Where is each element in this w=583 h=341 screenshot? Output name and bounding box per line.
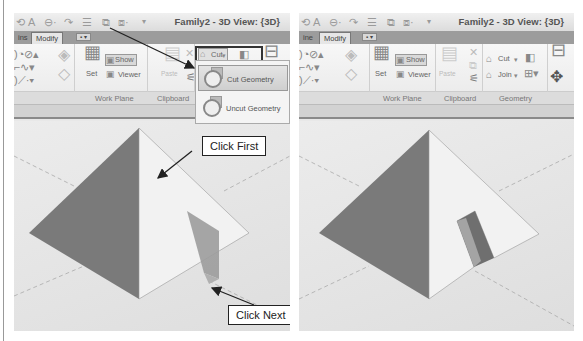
text-icon[interactable]: A (28, 16, 35, 28)
viewer-icon: ▣ (106, 69, 115, 80)
align-icon[interactable]: ⊟ (551, 45, 566, 56)
join-dropdown-icon[interactable]: ▾ (514, 70, 518, 81)
pick-lines-icon[interactable]: )⟋·▾ (14, 75, 34, 86)
group-label-geometry: Geometry (499, 94, 532, 103)
tab-modify[interactable]: Modify (319, 32, 351, 44)
callout-click-first: Click First (202, 136, 266, 156)
show-icon: ▣ (396, 55, 405, 66)
set-workplane-icon[interactable]: ▦ (84, 47, 101, 58)
move-icon[interactable]: ✥ (550, 71, 563, 82)
split-face-icon[interactable]: ⊞▾ (524, 68, 539, 79)
right-screenshot-panel: ⟲ A ⊖· ↷ ☰ ⧉ ⧈· ▾ Family2 - 3D View: {3D… (299, 13, 574, 331)
close-hidden-icon[interactable]: ⧈· (403, 16, 414, 28)
void-form-icon[interactable]: ◇ (345, 68, 357, 79)
draw-tools-icon[interactable]: )◔⊘▴ (299, 49, 324, 60)
paste-label[interactable]: Paste (161, 69, 178, 79)
open-icon[interactable]: ⟲ (16, 16, 25, 28)
ribbon-tabs: ine Modify ▪ ▾ (299, 31, 574, 44)
window-title: Family2 - 3D View: {3D} (175, 16, 280, 27)
viewer-icon: ▣ (396, 69, 405, 80)
ribbon-group-labels: Work Plane Clipboard Geometry (299, 92, 574, 105)
void-form-icon[interactable]: ◇ (58, 68, 70, 79)
customize-dropdown-icon[interactable]: ▾ (142, 16, 146, 28)
spline-icon[interactable]: ⌐∿▾ (299, 62, 320, 73)
text-icon[interactable]: A (313, 16, 320, 28)
options-bar (299, 105, 574, 119)
cut-clipboard-icon[interactable]: ✕ (469, 47, 478, 58)
paste-label[interactable]: Paste (439, 69, 456, 79)
group-label-clipboard: Clipboard (157, 94, 189, 103)
viewer-label[interactable]: Viewer (408, 70, 431, 80)
open-icon[interactable]: ⟲ (301, 16, 310, 28)
tab-panel-toggle[interactable]: ▪ ▾ (76, 33, 91, 41)
cut-icon: ⌂ (486, 53, 492, 64)
show-label: Show (406, 55, 425, 65)
set-label[interactable]: Set (86, 69, 97, 79)
customize-dropdown-icon[interactable]: ▾ (427, 16, 431, 28)
draw-tools-icon[interactable]: )◔⊘▴ (14, 49, 39, 60)
form-icon[interactable]: ◈ (58, 49, 70, 60)
copy-icon[interactable]: ⧉ (469, 60, 477, 71)
thin-lines-icon[interactable]: ☰ (367, 16, 377, 28)
join-icon: ⌂ (486, 69, 492, 80)
cope-icon[interactable]: ◧ (525, 52, 535, 63)
thin-lines-icon[interactable]: ☰ (82, 16, 92, 28)
window-title: Family2 - 3D View: {3D} (459, 16, 564, 27)
spline-icon[interactable]: ⌐∿▾ (14, 62, 35, 73)
set-workplane-icon[interactable]: ▦ (373, 47, 390, 58)
cut-label[interactable]: Cut (498, 54, 510, 64)
quick-access-toolbar: ⟲ A ⊖· ↷ ☰ ⧉ ⧈· ▾ Family2 - 3D View: {3D… (299, 13, 574, 31)
viewer-label[interactable]: Viewer (118, 70, 141, 80)
page-left-rule (3, 0, 4, 341)
align-icon[interactable]: ⊟ (264, 46, 279, 57)
tab-ine[interactable]: ine (299, 32, 317, 44)
show-icon: ▣ (106, 55, 115, 66)
undo-icon[interactable]: ⊖· (44, 16, 57, 28)
menu-item-uncut-geometry[interactable]: Uncut Geometry (198, 95, 288, 121)
cut-dropdown-menu: Cut Geometry Uncut Geometry (195, 60, 290, 124)
tab-ins[interactable]: ins (14, 32, 32, 44)
menu-item-cut-geometry[interactable]: Cut Geometry (198, 65, 288, 91)
redo-icon[interactable]: ↷ (64, 16, 73, 28)
group-label-work-plane: Work Plane (383, 94, 422, 103)
group-label-clipboard: Clipboard (444, 94, 476, 103)
3d-viewport[interactable] (299, 121, 574, 331)
uncut-geometry-icon (203, 99, 221, 117)
paste-icon[interactable]: ▤ (164, 48, 181, 59)
set-label[interactable]: Set (375, 69, 386, 79)
group-label-work-plane: Work Plane (95, 94, 134, 103)
quick-access-toolbar: ⟲ A ⊖· ↷ ☰ ⧉ ⧈· ▾ Family2 - 3D View: {3D… (14, 13, 290, 31)
join-label[interactable]: Join (498, 70, 512, 80)
switch-windows-icon[interactable]: ⧉ (387, 16, 395, 28)
tab-modify[interactable]: Modify (31, 32, 63, 44)
pyramid-with-opening (299, 121, 574, 331)
match-properties-icon[interactable]: ⚟ (469, 73, 479, 84)
redo-icon[interactable]: ↷ (349, 16, 358, 28)
paste-icon[interactable]: ▤ (441, 48, 458, 59)
tab-panel-toggle[interactable]: ▪ ▾ (362, 33, 377, 41)
ribbon-tabs: ins Modify ▪ ▾ (14, 31, 290, 44)
form-icon[interactable]: ◈ (345, 49, 357, 60)
ribbon: )◔⊘▴ ⌐∿▾ )⟋·▾ ◈ ◇ ▦ Set ▣ Show ▣ Viewer … (299, 44, 574, 92)
close-hidden-icon[interactable]: ⧈· (118, 16, 129, 28)
undo-icon[interactable]: ⊖· (329, 16, 342, 28)
show-label: Show (115, 55, 134, 65)
pick-lines-icon[interactable]: )⟋·▾ (299, 75, 319, 86)
callout-click-next: Click Next (228, 305, 290, 325)
cut-clipboard-icon[interactable]: ✕ (185, 48, 194, 59)
left-screenshot-panel: ⟲ A ⊖· ↷ ☰ ⧉ ⧈· ▾ Family2 - 3D View: {3D… (14, 13, 290, 331)
cut-geometry-icon (204, 70, 222, 88)
switch-windows-icon[interactable]: ⧉ (102, 16, 110, 28)
cut-dropdown-icon[interactable]: ▾ (514, 54, 518, 65)
